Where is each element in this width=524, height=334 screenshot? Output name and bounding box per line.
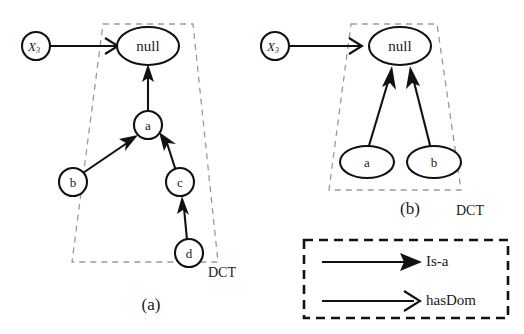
panel-b: X3 null — [261, 24, 484, 218]
node-label: d — [186, 246, 193, 261]
node-label: null — [136, 38, 159, 54]
solid-arrowhead-icon — [382, 66, 396, 90]
edge-hasdom-x-to-null-a — [51, 38, 118, 54]
dct-label-panel-a: DCT — [208, 265, 236, 280]
node-null-a[interactable]: null — [117, 27, 179, 65]
solid-arrowhead-icon — [159, 132, 176, 151]
figure-root: X3 null a — [0, 0, 524, 334]
edge-isa-b-to-a — [80, 135, 138, 175]
solid-arrowhead-icon — [177, 196, 189, 215]
legend-entry-has-dom: hasDom — [322, 291, 476, 311]
node-label: a — [364, 155, 370, 170]
node-b-panel-b[interactable]: b — [407, 146, 461, 178]
edge-line — [80, 141, 130, 175]
node-label: b — [431, 155, 438, 170]
edge-line — [368, 82, 388, 149]
edge-line — [414, 82, 431, 149]
external-variable-node-a[interactable]: X3 — [22, 32, 50, 60]
solid-arrowhead-icon — [406, 66, 420, 89]
edge-isa-a-to-null-a — [142, 64, 154, 111]
node-a-panel-a[interactable]: a — [134, 111, 162, 139]
node-c-panel-a[interactable]: c — [166, 168, 194, 196]
legend-label-has-dom: hasDom — [426, 292, 476, 308]
external-variable-node-b[interactable]: X3 — [261, 32, 289, 60]
edge-line — [166, 140, 176, 171]
panel-a: X3 null a — [22, 24, 236, 314]
diagram-canvas: X3 null a — [0, 0, 524, 334]
node-label: a — [145, 118, 151, 133]
legend: Is-a hasDom — [304, 240, 508, 318]
legend-entry-is-a: Is-a — [322, 253, 449, 271]
node-label: b — [70, 175, 77, 190]
node-label: null — [388, 38, 411, 54]
node-label: c — [177, 175, 183, 190]
edge-hasdom-x-to-null-b — [290, 38, 362, 54]
edge-isa-b-to-null-b — [406, 66, 431, 149]
caption-panel-b: (b) — [400, 199, 420, 218]
edge-isa-c-to-a — [159, 132, 176, 171]
node-b-panel-a[interactable]: b — [59, 168, 87, 196]
node-a-panel-b[interactable]: a — [340, 146, 394, 178]
edge-isa-a-to-null-b — [368, 66, 396, 149]
node-d-panel-a[interactable]: d — [175, 239, 203, 267]
solid-arrowhead-icon — [119, 135, 138, 151]
caption-panel-a: (a) — [142, 295, 161, 314]
dct-label-panel-b: DCT — [456, 203, 484, 218]
legend-border — [304, 240, 508, 318]
legend-label-is-a: Is-a — [426, 253, 449, 269]
edge-isa-d-to-c — [177, 196, 189, 240]
node-null-b[interactable]: null — [369, 27, 431, 65]
